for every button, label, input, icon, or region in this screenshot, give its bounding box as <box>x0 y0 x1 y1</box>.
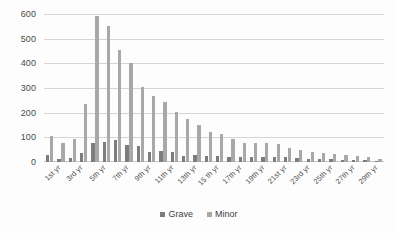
bar-minor[interactable] <box>367 157 370 162</box>
bar-group <box>316 14 327 162</box>
legend-item[interactable]: Minor <box>207 209 238 219</box>
bar-group <box>293 14 304 162</box>
legend-item[interactable]: Grave <box>160 209 193 219</box>
bar-grave[interactable] <box>261 157 264 162</box>
bar-grave[interactable] <box>273 157 276 162</box>
x-axis-tick-label: 29th yr <box>357 163 380 186</box>
bar-minor[interactable] <box>231 139 234 162</box>
bar-grave[interactable] <box>182 156 185 162</box>
bar-minor[interactable] <box>107 26 110 162</box>
x-axis-tick-label: 13th yr <box>175 163 198 186</box>
x-axis-tick-label: 1st yr <box>42 163 62 183</box>
bar-grave[interactable] <box>329 159 332 162</box>
bar-grave[interactable] <box>205 156 208 162</box>
bar-grave[interactable] <box>295 158 298 162</box>
bar-minor[interactable] <box>333 154 336 162</box>
bar-minor[interactable] <box>84 104 87 162</box>
bar-minor[interactable] <box>129 63 132 162</box>
bar-grave[interactable] <box>57 159 60 162</box>
bar-minor[interactable] <box>73 139 76 162</box>
x-axis-tick-label: 27th yr <box>334 163 357 186</box>
bar-minor[interactable] <box>356 156 359 162</box>
bar-group <box>191 14 202 162</box>
bar-minor[interactable] <box>118 50 121 162</box>
legend-swatch-icon <box>160 212 165 217</box>
bar-group <box>112 14 123 162</box>
bar-group <box>44 14 55 162</box>
bar-grave[interactable] <box>137 146 140 162</box>
bar-grave[interactable] <box>227 157 230 162</box>
chart-legend: GraveMinor <box>0 209 398 219</box>
bar-grave[interactable] <box>171 152 174 162</box>
bar-grave[interactable] <box>125 145 128 162</box>
bar-group <box>180 14 191 162</box>
bar-minor[interactable] <box>95 16 98 162</box>
bar-grave[interactable] <box>250 157 253 162</box>
x-axis-tick-label: 9th yr <box>133 163 153 183</box>
bar-grave[interactable] <box>216 156 219 162</box>
bar-grave[interactable] <box>307 159 310 162</box>
bar-grave[interactable] <box>46 155 49 162</box>
bar-minor[interactable] <box>197 125 200 162</box>
bar-grave[interactable] <box>148 152 151 162</box>
bar-grave[interactable] <box>318 159 321 162</box>
bar-minor[interactable] <box>288 148 291 162</box>
bar-group <box>67 14 78 162</box>
bar-minor[interactable] <box>277 144 280 163</box>
bar-group <box>339 14 350 162</box>
bar-minor[interactable] <box>220 134 223 162</box>
bar-minor[interactable] <box>50 136 53 162</box>
bar-grave[interactable] <box>239 157 242 162</box>
bar-minor[interactable] <box>152 96 155 162</box>
bar-grave[interactable] <box>341 160 344 162</box>
bar-group <box>248 14 259 162</box>
bar-group <box>259 14 270 162</box>
bar-grave[interactable] <box>363 160 366 162</box>
bar-grave[interactable] <box>69 158 72 162</box>
x-axis-tick-label: 3rd yr <box>65 163 85 183</box>
bar-group <box>237 14 248 162</box>
bar-minor[interactable] <box>186 119 189 162</box>
x-axis-tick-label: 25th yr <box>311 163 334 186</box>
x-axis-tick-label: 23rd yr <box>288 163 311 186</box>
bar-minor[interactable] <box>265 143 268 162</box>
x-axis-tick-label: 5th yr <box>87 163 107 183</box>
x-axis-tick-label: 19th yr <box>243 163 266 186</box>
bar-group <box>101 14 112 162</box>
legend-label: Minor <box>215 209 238 219</box>
bar-minor[interactable] <box>299 150 302 162</box>
bar-grave[interactable] <box>375 161 378 162</box>
bar-chart: 0100200300400500600 1st yr3rd yr5th yr7t… <box>0 0 398 233</box>
y-axis: 0100200300400500600 <box>0 14 40 162</box>
bar-grave[interactable] <box>193 155 196 162</box>
bar-grave[interactable] <box>91 143 94 162</box>
bar-minor[interactable] <box>175 112 178 162</box>
bar-minor[interactable] <box>311 152 314 162</box>
bar-minor[interactable] <box>209 132 212 162</box>
plot-area <box>44 14 384 162</box>
bar-minor[interactable] <box>163 102 166 162</box>
y-axis-tick-label: 600 <box>21 9 36 19</box>
bar-minor[interactable] <box>378 159 381 162</box>
bar-minor[interactable] <box>254 143 257 162</box>
bar-grave[interactable] <box>80 153 83 162</box>
bar-minor[interactable] <box>322 153 325 162</box>
y-axis-tick-label: 200 <box>21 108 36 118</box>
bar-group <box>146 14 157 162</box>
bar-series-container <box>44 14 384 162</box>
legend-swatch-icon <box>207 212 212 217</box>
bar-group <box>305 14 316 162</box>
bar-grave[interactable] <box>284 157 287 162</box>
y-axis-tick-label: 500 <box>21 34 36 44</box>
bar-grave[interactable] <box>103 142 106 162</box>
bar-group <box>361 14 372 162</box>
bar-group <box>373 14 384 162</box>
y-axis-tick-label: 300 <box>21 83 36 93</box>
bar-minor[interactable] <box>243 143 246 162</box>
bar-minor[interactable] <box>61 143 64 162</box>
bar-minor[interactable] <box>141 87 144 162</box>
bar-minor[interactable] <box>344 155 347 162</box>
bar-grave[interactable] <box>352 160 355 162</box>
bar-grave[interactable] <box>114 140 117 162</box>
bar-grave[interactable] <box>159 151 162 162</box>
